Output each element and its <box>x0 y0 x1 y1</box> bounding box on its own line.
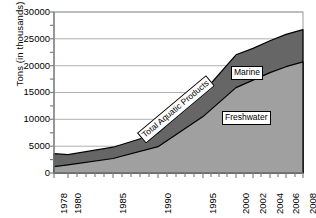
x-tick-label-2006: 2006 <box>290 193 301 214</box>
x-axis-ticks <box>54 173 303 178</box>
x-tick-label-1990: 1990 <box>162 193 173 214</box>
x-tick-label-2008: 2008 <box>307 193 316 214</box>
aquatic-products-area-chart: Tons (in thousands) 30000 25000 20000 15… <box>0 0 316 218</box>
x-tick-label-1985: 1985 <box>117 193 128 214</box>
y-axis-ticks <box>49 12 54 173</box>
x-tick-label-2002: 2002 <box>257 193 268 214</box>
x-tick-label-1995: 1995 <box>207 193 218 214</box>
x-tick-label-1978: 1978 <box>58 193 69 214</box>
marine-label: Marine <box>231 66 263 80</box>
freshwater-label: Freshwater <box>222 111 271 125</box>
x-tick-label-2004: 2004 <box>274 193 285 214</box>
plot-area <box>0 0 316 218</box>
x-tick-label-1980: 1980 <box>72 193 83 214</box>
x-tick-label-2000: 2000 <box>240 193 251 214</box>
